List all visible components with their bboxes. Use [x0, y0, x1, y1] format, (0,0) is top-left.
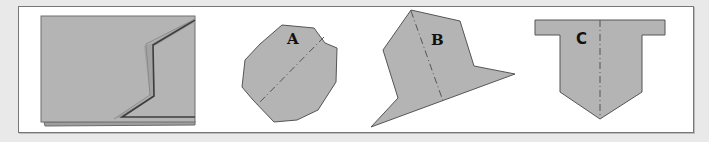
diagram-canvas: A B C: [0, 0, 709, 142]
label-c: C: [576, 30, 587, 48]
shape-c: C: [535, 20, 665, 119]
label-a: A: [286, 30, 299, 48]
label-b: B: [431, 31, 444, 49]
shape-a: A: [242, 25, 337, 122]
shape-b: B: [371, 10, 515, 127]
folded-sheet-figure: [41, 16, 195, 126]
